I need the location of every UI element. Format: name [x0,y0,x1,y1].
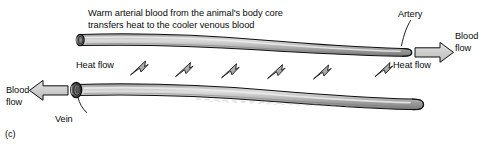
artery-vessel [76,34,412,56]
vein-vessel [71,82,424,109]
heat-flow-arrow-5 [314,65,332,79]
vein-leader-line [78,98,87,113]
heat-flow-arrow-6 [375,63,393,77]
heat-flow-right-label: Heat flow [393,60,431,72]
blood-flow-left-line-1: Blood [6,85,29,95]
heat-flow-arrow-1 [131,61,149,75]
artery-label: Artery [398,9,422,21]
blood-flow-right-label: Blood flow [455,30,478,55]
heat-flow-arrow-2 [176,63,194,77]
blood-flow-right-line-1: Blood [455,31,478,41]
blood-flow-left-line-2: flow [6,97,22,107]
blood-flow-right-line-2: flow [455,43,471,53]
heat-flow-left-label: Heat flow [76,60,114,72]
artery-leader-line [402,21,411,46]
panel-letter: (c) [5,129,16,141]
caption-line-2: transfers heat to the cooler venous bloo… [88,20,254,30]
heat-flow-arrow-3 [222,64,240,78]
vein-label: Vein [55,114,73,126]
heat-flow-arrows [131,61,393,79]
caption-line-1: Warm arterial blood from the animal's bo… [88,8,283,18]
figure-caption: Warm arterial blood from the animal's bo… [88,7,283,32]
blood-flow-arrow-left [30,80,69,100]
heat-flow-arrow-4 [268,65,286,79]
figure-panel: Warm arterial blood from the animal's bo… [0,0,490,146]
blood-flow-left-label: Blood flow [6,84,29,109]
